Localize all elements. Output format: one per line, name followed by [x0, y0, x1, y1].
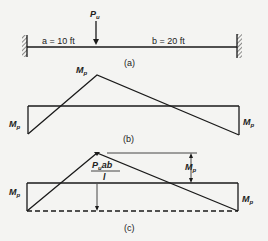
span-b-label: b = 20 ft — [152, 36, 185, 46]
left-fixed-support-icon — [22, 35, 27, 57]
left-moment-label-b: Mp — [9, 119, 21, 130]
mp-dimension-label: Mp — [185, 162, 197, 173]
caption-c: (c) — [124, 223, 135, 233]
right-moment-label-b: Mp — [243, 117, 255, 128]
load-arrow-icon — [93, 39, 99, 45]
caption-b: (b) — [123, 134, 134, 144]
right-fixed-support-icon — [237, 34, 242, 58]
plastic-moment-diagram: Pu a = 10 ft b = 20 ft (a) Mp Mp Mp (b) … — [0, 0, 268, 241]
caption-a: (a) — [124, 58, 135, 68]
moment-line-c — [27, 153, 238, 211]
span-a-label: a = 10 ft — [42, 36, 75, 46]
dimension-arrow-bottom-icon — [95, 206, 99, 211]
left-moment-label-c: Mp — [9, 187, 21, 198]
fraction-denominator: l — [103, 172, 106, 182]
peak-moment-label-b: Mp — [76, 65, 88, 76]
moment-line-b — [28, 75, 239, 135]
dimension-arrow-down-icon — [189, 178, 193, 183]
load-label: Pu — [90, 9, 100, 20]
beam-figure-a: Pu a = 10 ft b = 20 ft (a) — [22, 9, 242, 68]
right-moment-label-c: Mp — [242, 194, 254, 205]
fraction-numerator: Puab — [92, 160, 113, 171]
moment-diagram-c: Mp Puab l Mp Mp (c) — [9, 152, 254, 233]
dimension-arrow-up-icon — [189, 153, 193, 158]
moment-diagram-b: Mp Mp Mp (b) — [9, 65, 255, 144]
